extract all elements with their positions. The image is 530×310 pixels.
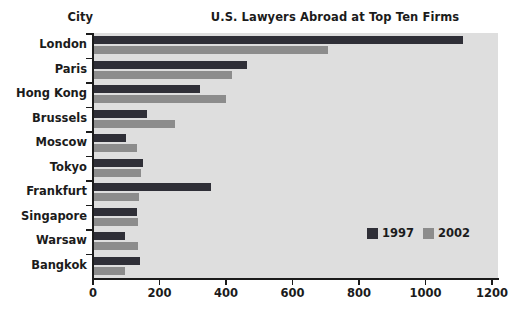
legend-item-1997: 1997 bbox=[367, 228, 414, 240]
y-axis-label-tokyo: Tokyo bbox=[0, 160, 87, 174]
x-axis-tick bbox=[159, 279, 161, 285]
x-axis-tick bbox=[292, 279, 294, 285]
x-axis-label-400: 400 bbox=[196, 286, 256, 300]
bar-hong-kong-1997 bbox=[93, 85, 200, 93]
bar-group bbox=[93, 256, 498, 281]
bar-tokyo-1997 bbox=[93, 159, 143, 167]
bar-group bbox=[93, 133, 498, 158]
legend-label-2002: 2002 bbox=[438, 228, 470, 240]
y-axis-tick bbox=[86, 229, 92, 231]
bar-bangkok-1997 bbox=[93, 257, 140, 265]
chart-title: U.S. Lawyers Abroad at Top Ten Firms bbox=[170, 10, 500, 24]
x-axis-label-200: 200 bbox=[130, 286, 190, 300]
y-axis-label-singapore: Singapore bbox=[0, 209, 87, 223]
y-axis-tick bbox=[86, 180, 92, 182]
y-axis-label-paris: Paris bbox=[0, 62, 87, 76]
bar-group bbox=[93, 158, 498, 183]
bar-brussels-2002 bbox=[93, 120, 175, 128]
legend-label-1997: 1997 bbox=[382, 228, 414, 240]
x-axis-line bbox=[92, 278, 499, 280]
bar-london-2002 bbox=[93, 46, 328, 54]
bar-frankfurt-2002 bbox=[93, 193, 139, 201]
y-axis-tick bbox=[86, 156, 92, 158]
x-axis-label-600: 600 bbox=[263, 286, 323, 300]
y-axis-label-london: London bbox=[0, 37, 87, 51]
plot-area bbox=[93, 33, 498, 278]
x-axis-label-1200: 1200 bbox=[462, 286, 522, 300]
legend: 19972002 bbox=[367, 228, 470, 240]
y-axis-label-hong-kong: Hong Kong bbox=[0, 86, 87, 100]
y-axis-label-moscow: Moscow bbox=[0, 135, 87, 149]
bar-group bbox=[93, 109, 498, 134]
y-axis-label-warsaw: Warsaw bbox=[0, 233, 87, 247]
bar-group bbox=[93, 35, 498, 60]
x-axis-label-800: 800 bbox=[329, 286, 389, 300]
bar-brussels-1997 bbox=[93, 110, 147, 118]
y-axis-title: City bbox=[68, 10, 93, 24]
y-axis-label-brussels: Brussels bbox=[0, 111, 87, 125]
bar-group bbox=[93, 60, 498, 85]
bar-tokyo-2002 bbox=[93, 169, 141, 177]
bar-group bbox=[93, 84, 498, 109]
bar-paris-2002 bbox=[93, 71, 232, 79]
bar-hong-kong-2002 bbox=[93, 95, 226, 103]
y-axis-label-bangkok: Bangkok bbox=[0, 258, 87, 272]
x-axis-label-1000: 1000 bbox=[396, 286, 456, 300]
bar-singapore-2002 bbox=[93, 218, 138, 226]
y-axis-tick bbox=[86, 254, 92, 256]
x-axis-tick bbox=[225, 279, 227, 285]
x-axis-tick bbox=[491, 279, 493, 285]
x-axis-tick bbox=[92, 279, 94, 285]
bar-warsaw-2002 bbox=[93, 242, 138, 250]
y-axis-line bbox=[92, 33, 94, 278]
bar-moscow-2002 bbox=[93, 144, 137, 152]
bar-london-1997 bbox=[93, 36, 463, 44]
bar-moscow-1997 bbox=[93, 134, 126, 142]
bar-group bbox=[93, 182, 498, 207]
y-axis-tick bbox=[86, 107, 92, 109]
bar-singapore-1997 bbox=[93, 208, 137, 216]
legend-swatch-1997 bbox=[367, 228, 378, 239]
bar-chart: City U.S. Lawyers Abroad at Top Ten Firm… bbox=[0, 0, 530, 310]
bar-bangkok-2002 bbox=[93, 267, 125, 275]
y-axis-tick bbox=[86, 82, 92, 84]
y-axis-tick bbox=[86, 205, 92, 207]
bar-frankfurt-1997 bbox=[93, 183, 211, 191]
y-axis-tick bbox=[86, 58, 92, 60]
legend-swatch-2002 bbox=[423, 228, 434, 239]
y-axis-tick bbox=[86, 131, 92, 133]
x-axis-tick bbox=[425, 279, 427, 285]
y-axis-tick bbox=[86, 33, 92, 35]
x-axis-tick bbox=[358, 279, 360, 285]
legend-item-2002: 2002 bbox=[423, 228, 470, 240]
y-axis-label-frankfurt: Frankfurt bbox=[0, 184, 87, 198]
bar-warsaw-1997 bbox=[93, 232, 125, 240]
x-axis-label-0: 0 bbox=[63, 286, 123, 300]
bar-paris-1997 bbox=[93, 61, 247, 69]
bars-layer bbox=[93, 33, 498, 278]
